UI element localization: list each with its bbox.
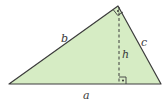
label-c: c — [141, 36, 147, 49]
foot-right-angle-dot — [122, 80, 124, 82]
triangle-diagram: b c h a — [0, 0, 164, 102]
label-h: h — [122, 48, 129, 61]
triangle-shape — [9, 6, 161, 84]
apex-right-angle-dot — [117, 10, 119, 12]
label-b: b — [61, 32, 68, 45]
label-a: a — [83, 89, 90, 102]
